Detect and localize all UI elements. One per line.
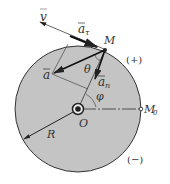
tangential-accel-vector [70,36,97,47]
point-m0 [139,107,143,111]
label-minus: (−) [127,154,143,165]
label-a-n-sub: n [105,81,110,90]
label-v: v [40,10,47,24]
label-r: R [46,128,55,141]
point-m [103,48,107,52]
label-a: a [43,68,50,82]
label-m0-sub: 0 [153,109,158,117]
label-theta: θ [84,63,91,76]
circular-motion-diagram: v a τ M (+) a θ a n φ M 0 O R (−) [0,0,170,184]
label-plus: (+) [126,54,142,65]
label-m: M [103,34,116,47]
label-a-tau-sub: τ [85,28,90,37]
axle-inner [75,106,81,112]
label-o: O [79,117,88,130]
label-phi: φ [96,90,104,103]
